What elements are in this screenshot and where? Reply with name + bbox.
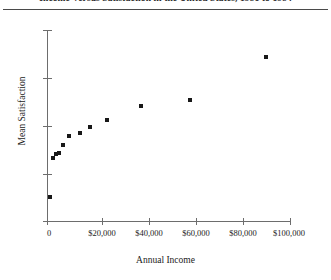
chart-title: Income Versus Satisfaction in the United… — [39, 0, 292, 3]
title-divider — [3, 9, 328, 10]
x-tick-label: $40,000 — [135, 228, 163, 238]
data-point — [88, 125, 92, 129]
x-axis-tick — [290, 218, 291, 225]
scatter-chart-figure: Income Versus Satisfaction in the United… — [0, 0, 331, 280]
data-point — [51, 156, 55, 160]
data-point — [188, 98, 192, 102]
y-axis-title: Mean Satisfaction — [17, 41, 27, 181]
data-point — [48, 195, 52, 199]
x-axis-line — [47, 221, 290, 222]
x-axis-title: Annual Income — [0, 255, 331, 265]
x-tick-label: $100,000 — [273, 228, 305, 238]
x-tick-label: $80,000 — [229, 228, 257, 238]
data-point — [57, 151, 61, 155]
x-tick-label: 0 — [47, 228, 51, 238]
data-point — [78, 131, 82, 135]
data-point — [105, 118, 109, 122]
data-point — [67, 134, 71, 138]
data-point — [61, 143, 65, 147]
x-tick-label: $20,000 — [88, 228, 116, 238]
data-point — [264, 55, 268, 59]
x-tick-label: $60,000 — [182, 228, 210, 238]
chart-title-band: Income Versus Satisfaction in the United… — [0, 0, 331, 9]
data-point — [139, 104, 143, 108]
plot-area — [47, 30, 290, 221]
